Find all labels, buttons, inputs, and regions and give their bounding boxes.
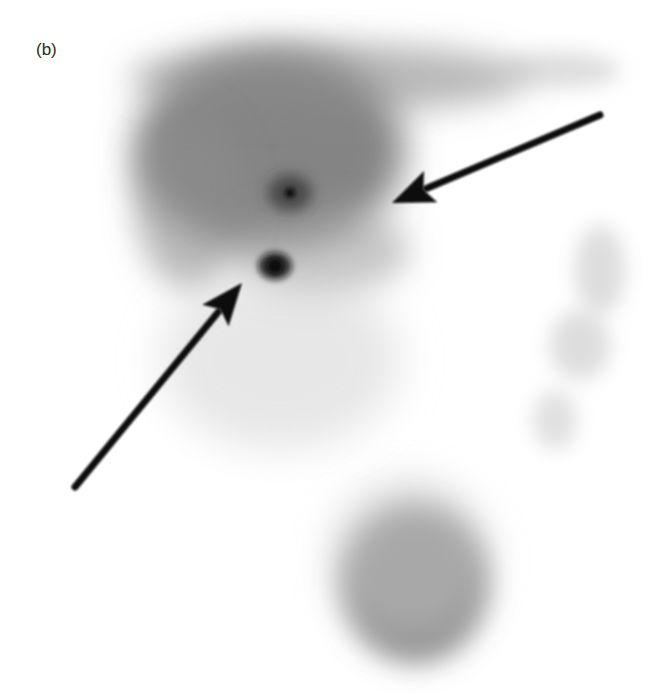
right-colon-faint-lower — [533, 390, 577, 450]
right-colon-faint-upper — [575, 225, 625, 315]
figure-panel: (b) — [0, 0, 665, 695]
bladder-halo — [330, 480, 490, 640]
focal-uptake-upper — [268, 175, 312, 211]
liver-upper-band — [130, 43, 530, 113]
liver-left-edge — [135, 110, 245, 290]
panel-label: (b) — [36, 40, 57, 60]
bowel-faint-trail — [160, 270, 400, 450]
scintigraphy-image — [0, 0, 665, 695]
right-colon-faint-mid — [550, 310, 610, 380]
liver-right-lobe-faint — [500, 52, 620, 88]
focal-uptake-lower — [258, 252, 292, 280]
